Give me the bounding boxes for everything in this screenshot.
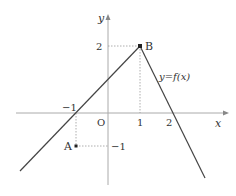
y-axis-label: y [97, 12, 105, 25]
function-label: y=f(x) [158, 71, 190, 82]
left-segment [20, 46, 140, 171]
y-axis-arrow-icon [106, 14, 111, 20]
origin-label: O [97, 117, 105, 128]
tick-label-x-2: 2 [166, 117, 172, 128]
point-b-label: B [145, 40, 153, 53]
tick-label-y-2: 2 [96, 41, 102, 52]
point-a-marker [75, 145, 78, 148]
right-segment [140, 46, 205, 178]
x-axis-label: x [215, 117, 222, 130]
point-a-label: A [63, 140, 73, 153]
tick-label-x-1: 1 [137, 117, 143, 128]
x-axis-arrow-icon [223, 111, 229, 116]
point-b-marker [138, 44, 142, 48]
function-curve [20, 46, 205, 178]
axes [16, 14, 229, 185]
tick-label-y-neg1: −1 [111, 141, 126, 152]
graph-svg: y x O 2 −1 1 2 −1 B A y=f(x) [0, 0, 236, 196]
function-graph: y x O 2 −1 1 2 −1 B A y=f(x) [0, 0, 236, 196]
tick-label-x-neg1: −1 [62, 102, 77, 113]
